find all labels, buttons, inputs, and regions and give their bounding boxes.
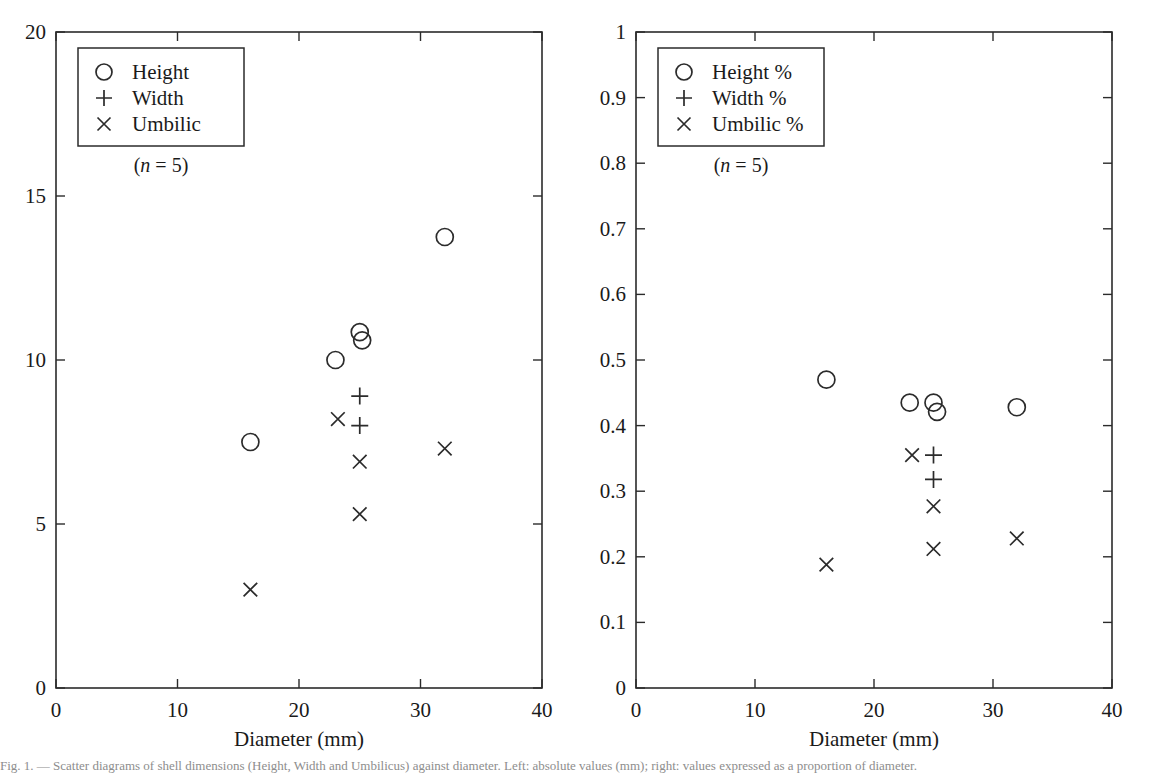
left-yticklabel: 10 [25,348,46,372]
right-marker-cross [820,558,834,572]
left-marker-circle [242,434,259,451]
right-yticklabel: 0.9 [600,86,626,110]
left-yticklabel: 20 [25,20,46,44]
right-yticklabel: 0 [616,676,627,700]
right-marker-circle [901,394,918,411]
left-marker-cross [244,583,258,597]
right-marker-cross [1010,532,1024,546]
left-legend-label: Umbilic [132,112,201,136]
left-yticklabel: 15 [25,184,46,208]
left-yticklabel: 0 [36,676,47,700]
left-xticklabel: 10 [167,698,188,722]
right-yticklabel: 0.5 [600,348,626,372]
left-sample-size-note: (n = 5) [134,154,189,177]
left-marker-circle [436,229,453,246]
right-yticklabel: 0.3 [600,479,626,503]
left-xticklabel: 40 [532,698,553,722]
figure-caption: Fig. 1. — Scatter diagrams of shell dime… [0,757,1152,774]
left-marker-plus [351,417,368,434]
right-marker-plus [925,447,942,464]
right-sample-size-note: (n = 5) [714,154,769,177]
right-legend-label: Umbilic % [712,112,804,136]
right-marker-plus [925,471,942,488]
left-marker-cross [331,412,345,426]
right-marker-circle [925,394,942,411]
right-yticklabel: 0.7 [600,217,626,241]
left-xaxis-title: Diameter (mm) [234,727,364,751]
right-yticklabel: 0.4 [600,414,627,438]
right-xticklabel: 40 [1102,698,1123,722]
left-legend-label: Height [132,60,189,84]
left-xticklabel: 20 [289,698,310,722]
left-marker-cross [438,442,452,456]
right-yticklabel: 0.6 [600,282,626,306]
right-yticklabel: 1 [616,20,627,44]
right-marker-circle [1008,399,1025,416]
right-yticklabel: 0.8 [600,151,626,175]
right-marker-circle [818,371,835,388]
right-marker-cross [927,542,941,556]
left-xticklabel: 30 [410,698,431,722]
right-xticklabel: 10 [745,698,766,722]
left-legend-label: Width [132,86,184,110]
right-xticklabel: 30 [983,698,1004,722]
left-marker-cross [353,455,367,469]
right-xticklabel: 0 [631,698,642,722]
right-xaxis-title: Diameter (mm) [809,727,939,751]
right-legend-label: Width % [712,86,786,110]
figure-container: 01020304005101520Diameter (mm)HeightWidt… [0,0,1152,775]
right-yticklabel: 0.1 [600,610,626,634]
right-marker-cross [927,499,941,513]
left-xticklabel: 0 [51,698,62,722]
right-marker-cross [905,448,919,462]
right-yticklabel: 0.2 [600,545,626,569]
left-marker-plus [351,388,368,405]
left-marker-cross [353,507,367,521]
left-yticklabel: 5 [36,512,47,536]
right-legend-label: Height % [712,60,792,84]
right-xticklabel: 20 [864,698,885,722]
left-marker-circle [327,352,344,369]
scatter-plot-left: 01020304005101520Diameter (mm)HeightWidt… [0,0,1152,775]
right-marker-circle [929,403,946,420]
